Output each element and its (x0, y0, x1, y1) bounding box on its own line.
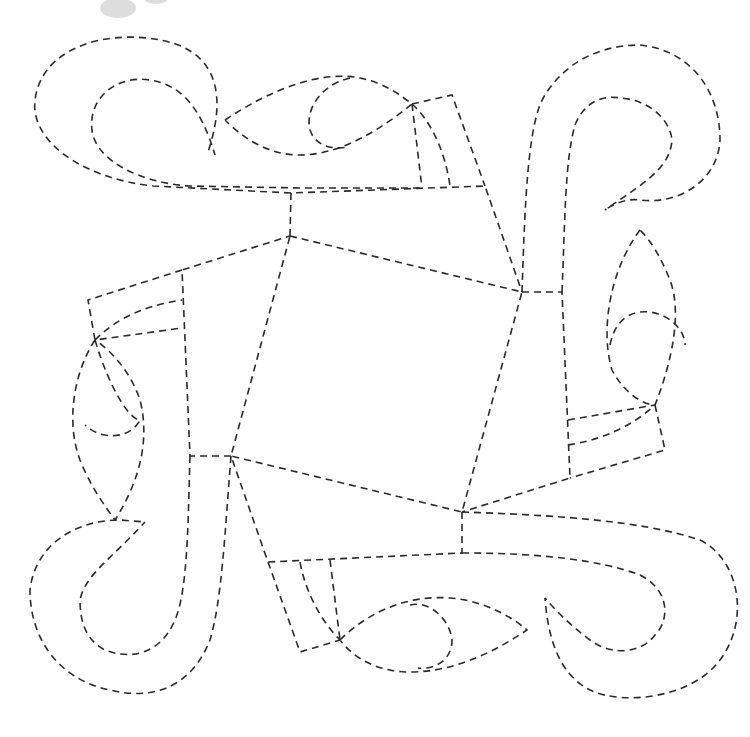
dashed-pattern-lines (30, 37, 737, 698)
right-band (522, 45, 720, 292)
left-leaf (73, 340, 144, 520)
top-tab-lines (412, 104, 450, 188)
right-band-outer (462, 292, 570, 512)
bottom-leaf-loop (410, 604, 452, 668)
top-band-outer (290, 186, 522, 292)
bottom-band-outer (231, 456, 462, 562)
bottom-band-inner (462, 553, 665, 651)
quilting-pattern-canvas (0, 0, 750, 737)
right-tab (568, 405, 665, 478)
gray-smudge (100, 0, 136, 18)
top-leaf (225, 76, 412, 155)
right-leaf-loop (610, 312, 685, 345)
center-square (231, 236, 522, 512)
top-band-inner (35, 37, 291, 193)
right-band-inner (562, 97, 672, 292)
gray-smudge-small (144, 0, 168, 4)
left-tab (88, 270, 182, 340)
bottom-band (462, 512, 737, 698)
left-band (30, 456, 231, 693)
top-tab (412, 95, 485, 186)
left-band-outer (182, 236, 290, 456)
bottom-leaf (340, 598, 527, 672)
bottom-tab (268, 560, 340, 652)
left-band-inner (80, 456, 190, 655)
top-leaf-loop (309, 78, 350, 148)
